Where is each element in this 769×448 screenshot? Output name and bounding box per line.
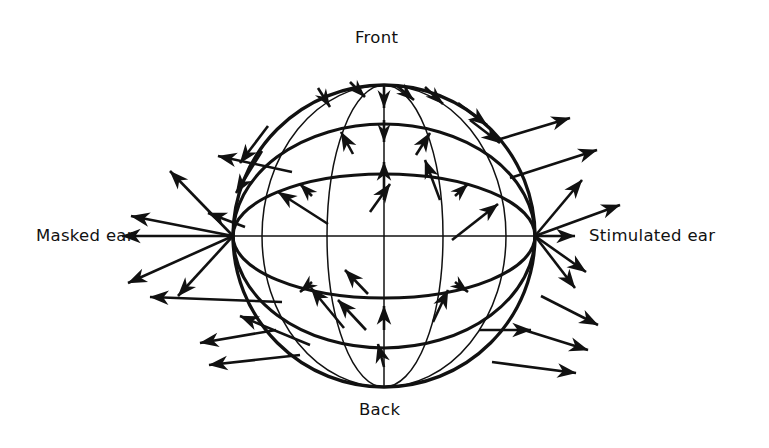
arrows-interior-lower: [311, 270, 448, 367]
sphere-diagram: Front Back Masked ear Stimulated ear: [0, 0, 769, 448]
label-stimulated-ear: Stimulated ear: [589, 226, 715, 245]
diagram-canvas: [0, 0, 769, 448]
label-back: Back: [359, 400, 400, 419]
label-masked-ear: Masked ear: [36, 226, 134, 245]
label-front: Front: [355, 28, 398, 47]
arrows-lower-left: [150, 297, 310, 365]
arrows-left-pole: [122, 171, 245, 296]
